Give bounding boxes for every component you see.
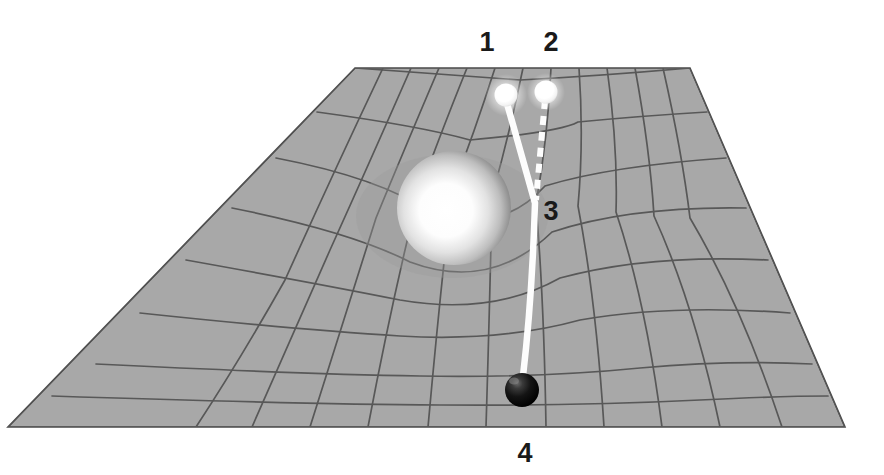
massive-body-sphere: [397, 151, 511, 265]
label-4: 4: [505, 440, 545, 467]
scene-canvas: [0, 0, 884, 475]
label-1: 1: [467, 29, 507, 56]
label-2: 2: [531, 29, 571, 56]
apparent-image-sphere: [485, 74, 527, 116]
label-3: 3: [531, 198, 571, 225]
observer-sphere: [505, 373, 539, 407]
spacetime-lensing-figure: 1 2 3 4: [0, 0, 884, 475]
true-source-sphere: [527, 73, 565, 111]
